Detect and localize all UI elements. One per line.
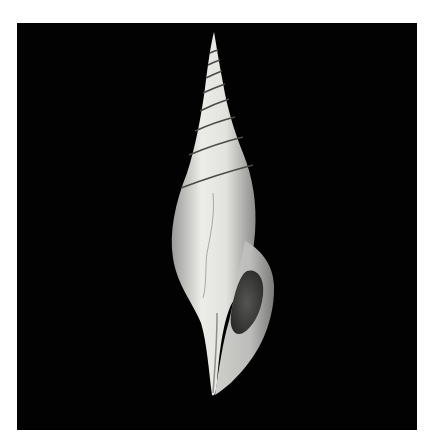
photo-panel bbox=[17, 23, 417, 430]
shell-illustration bbox=[17, 23, 417, 430]
